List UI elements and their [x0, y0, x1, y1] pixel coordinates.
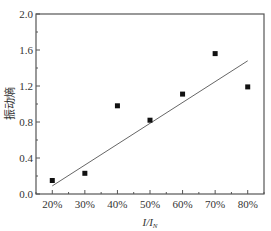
x-tick-label: 20%	[42, 198, 62, 210]
y-axis-ticks: 0.00.40.81.21.62.0	[19, 8, 40, 200]
y-axis-label: 振动熵	[3, 87, 16, 120]
x-tick-label: 70%	[205, 198, 225, 210]
data-point-square	[213, 51, 218, 56]
chart: 0.00.40.81.21.62.0 20%30%40%50%60%70%80%…	[0, 0, 271, 231]
data-point-square	[115, 103, 120, 108]
x-tick-label: 40%	[107, 198, 127, 210]
x-tick-label: 60%	[172, 198, 192, 210]
data-point-square	[82, 171, 87, 176]
x-tick-label: 80%	[238, 198, 258, 210]
fit-line-segment	[52, 61, 247, 186]
data-point-square	[148, 118, 153, 123]
x-tick-label: 50%	[140, 198, 160, 210]
plot-frame	[36, 14, 264, 194]
y-tick-label: 2.0	[19, 8, 33, 20]
x-axis-ticks: 20%30%40%50%60%70%80%	[36, 190, 264, 210]
y-tick-label: 1.2	[19, 80, 33, 92]
x-axis-label-subscript: N	[152, 222, 158, 230]
y-tick-label: 0.4	[19, 152, 33, 164]
data-point-square	[180, 92, 185, 97]
fit-line	[52, 61, 247, 186]
y-tick-label: 0.8	[19, 116, 33, 128]
data-points	[50, 51, 250, 183]
data-point-square	[245, 84, 250, 89]
axes-box	[36, 14, 264, 194]
x-axis-label: I/IN	[141, 216, 157, 230]
data-point-square	[50, 178, 55, 183]
x-tick-label: 30%	[75, 198, 95, 210]
y-tick-label: 0.0	[19, 188, 33, 200]
y-tick-label: 1.6	[19, 44, 33, 56]
